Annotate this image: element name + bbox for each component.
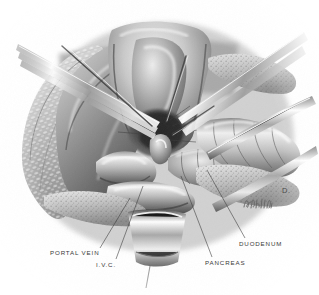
label-pancreas: PANCREAS — [205, 260, 245, 266]
panel-letter-mark: D. — [282, 186, 291, 195]
illustration-body — [0, 0, 319, 295]
artist-signature — [243, 196, 273, 210]
label-ivc: I.V.C. — [96, 262, 116, 268]
label-portal-vein: PORTAL VEIN — [50, 250, 99, 256]
label-duodenum: DUODENUM — [239, 241, 282, 247]
anatomical-illustration-figure: PORTAL VEIN I.V.C. PANCREAS DUODENUM D. — [0, 0, 319, 295]
surgical-illustration-artwork — [0, 0, 319, 295]
